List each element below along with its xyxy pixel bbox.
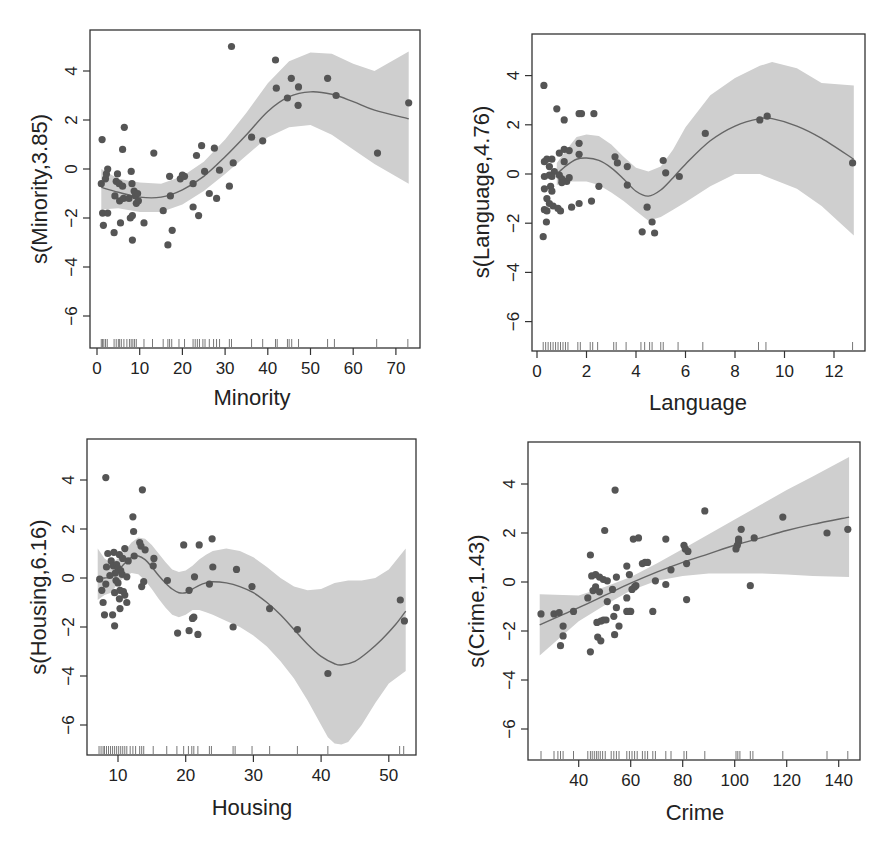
data-point: [561, 158, 568, 165]
data-point: [644, 204, 651, 211]
data-point: [557, 642, 564, 649]
data-point: [206, 581, 213, 588]
data-point: [103, 563, 110, 570]
data-point: [614, 159, 621, 166]
data-point: [566, 174, 573, 181]
data-point: [248, 583, 255, 590]
y-axis: −6−4−2024: [504, 71, 532, 331]
data-point: [211, 145, 218, 152]
data-point: [844, 526, 851, 533]
y-tick-label: 0: [500, 577, 519, 586]
x-tick-label: 140: [825, 771, 853, 790]
data-point: [194, 631, 201, 638]
data-point: [111, 622, 118, 629]
data-point: [632, 582, 639, 589]
plot-area: [540, 62, 857, 240]
x-axis: 010203040506070: [92, 348, 405, 378]
data-point: [568, 204, 575, 211]
x-tick-label: 8: [730, 362, 739, 381]
data-point: [104, 550, 111, 557]
data-point: [167, 192, 174, 199]
y-tick-label: −6: [500, 719, 519, 738]
y-tick-label: 0: [504, 169, 523, 178]
data-point: [566, 147, 573, 154]
data-point: [96, 576, 103, 583]
plot-area: [537, 457, 851, 655]
data-point: [676, 173, 683, 180]
data-point: [602, 616, 609, 623]
x-tick-label: 120: [773, 771, 801, 790]
confidence-band: [557, 62, 854, 235]
data-point: [662, 169, 669, 176]
x-tick-label: 0: [92, 359, 101, 378]
rug-marks: [99, 746, 404, 754]
data-point: [181, 173, 188, 180]
data-point: [612, 487, 619, 494]
data-point: [639, 228, 646, 235]
gam-partial-effects-figure: Minority s(Minority,3.85) 01020304050607…: [0, 0, 889, 843]
data-point: [99, 136, 106, 143]
data-point: [135, 197, 142, 204]
data-point: [623, 594, 630, 601]
data-point: [401, 617, 408, 624]
data-point: [129, 237, 136, 244]
x-axis: 1020304050: [109, 755, 399, 785]
data-point: [541, 185, 548, 192]
data-point: [560, 623, 567, 630]
x-axis-title: Housing: [212, 795, 293, 820]
y-axis: −6−4−2024: [59, 475, 87, 734]
data-point: [295, 83, 302, 90]
x-tick-label: 20: [173, 359, 192, 378]
y-tick-label: −4: [500, 670, 519, 689]
rug-marks: [101, 339, 408, 347]
x-tick-label: 30: [216, 359, 235, 378]
data-point: [548, 173, 555, 180]
data-point: [288, 75, 295, 82]
data-point: [226, 183, 233, 190]
data-point: [174, 630, 181, 637]
y-tick-label: −6: [504, 312, 523, 331]
data-point: [604, 577, 611, 584]
confidence-band: [98, 538, 406, 745]
data-point: [100, 222, 107, 229]
data-point: [747, 582, 754, 589]
data-point: [324, 670, 331, 677]
data-point: [98, 587, 105, 594]
data-point: [779, 514, 786, 521]
data-point: [684, 548, 691, 555]
data-point: [104, 210, 111, 217]
x-tick-label: 40: [312, 766, 331, 785]
data-point: [228, 43, 235, 50]
data-point: [397, 596, 404, 603]
data-point: [623, 563, 630, 570]
plot-area: [96, 474, 408, 745]
y-tick-label: 4: [62, 66, 81, 75]
data-point: [104, 165, 111, 172]
data-point: [587, 648, 594, 655]
data-point: [166, 173, 173, 180]
data-point: [142, 546, 149, 553]
data-point: [610, 613, 617, 620]
data-point: [651, 229, 658, 236]
x-tick-label: 40: [258, 359, 277, 378]
x-axis: 406080100120140: [569, 760, 853, 790]
data-point: [150, 150, 157, 157]
y-tick-label: 2: [500, 528, 519, 537]
data-point: [584, 594, 591, 601]
data-point: [119, 183, 126, 190]
data-point: [601, 527, 608, 534]
y-axis-title: s(Housing,6.16): [26, 519, 51, 674]
confidence-band: [540, 457, 849, 655]
data-point: [294, 626, 301, 633]
confidence-band: [101, 51, 408, 212]
data-point: [123, 573, 130, 580]
data-point: [190, 203, 197, 210]
data-point: [119, 555, 126, 562]
data-point: [662, 536, 669, 543]
y-tick-label: −4: [62, 257, 81, 276]
data-point: [702, 130, 709, 137]
data-point: [635, 534, 642, 541]
data-point: [273, 85, 280, 92]
x-tick-label: 20: [176, 766, 195, 785]
x-tick-label: 10: [130, 359, 149, 378]
